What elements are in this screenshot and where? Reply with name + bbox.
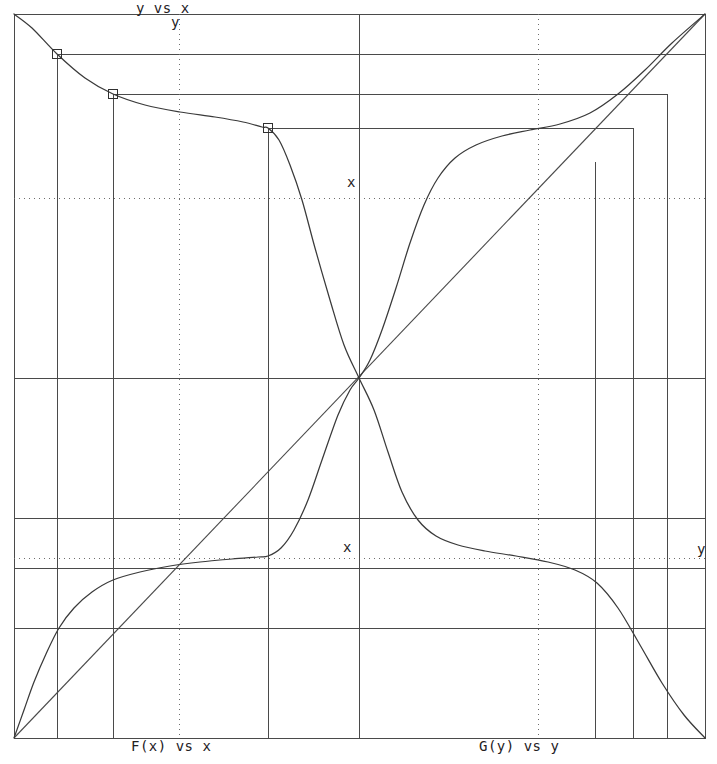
plot-canvas bbox=[0, 0, 717, 764]
bottom-right-axis-label: G(y) vs y bbox=[479, 738, 559, 754]
x-label-upper: x bbox=[347, 174, 356, 190]
square-markers-group bbox=[53, 50, 273, 133]
figure-root: y vs x y x x y F(x) vs x G(y) vs y bbox=[0, 0, 717, 764]
y-axis-label: y bbox=[171, 14, 180, 30]
square-marker-3 bbox=[264, 124, 273, 133]
chart-title: y vs x bbox=[136, 0, 190, 16]
square-marker-2 bbox=[109, 90, 118, 99]
x-label-lower: x bbox=[343, 539, 352, 555]
y-label-right: y bbox=[697, 541, 706, 557]
square-marker-1 bbox=[53, 50, 62, 59]
bottom-left-axis-label: F(x) vs x bbox=[131, 738, 211, 754]
